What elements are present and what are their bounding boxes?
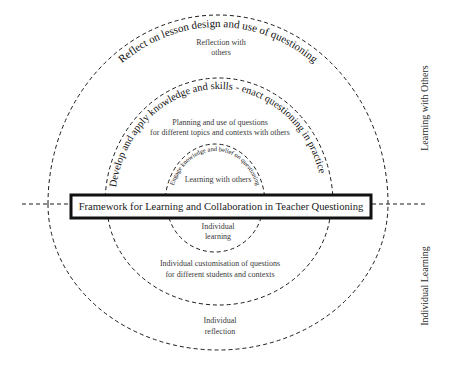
middle-upper-label-line2: for different topics and contexts with o… bbox=[150, 128, 290, 137]
side-label-individual-learning: Individual Learning bbox=[419, 246, 430, 326]
middle-upper-label-line1: Planning and use of questions bbox=[172, 118, 268, 127]
inner-lower-label-line1: Individual bbox=[202, 222, 236, 231]
inner-lower-label-line2: learning bbox=[205, 232, 231, 241]
outer-upper-label-line1: Reflection with bbox=[196, 38, 246, 47]
middle-lower-label-line2: for different students and contexts bbox=[165, 270, 274, 279]
middle-ring-upper bbox=[105, 78, 333, 204]
outer-lower-label-line2: reflection bbox=[205, 327, 236, 336]
outer-upper-label-line2: others bbox=[211, 48, 231, 57]
title-text: Framework for Learning and Collaboration… bbox=[79, 201, 364, 212]
middle-lower-label-line1: Individual customisation of questions bbox=[160, 259, 280, 268]
framework-diagram: Reflect on lesson design and use of ques… bbox=[0, 0, 449, 366]
title-box: Framework for Learning and Collaboration… bbox=[71, 195, 371, 218]
outer-lower-label-line1: Individual bbox=[204, 316, 238, 325]
inner-upper-label: Learning with others bbox=[185, 175, 252, 184]
side-label-learning-with-others: Learning with Others bbox=[419, 65, 430, 151]
